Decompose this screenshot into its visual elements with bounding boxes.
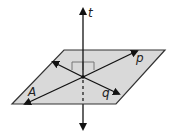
intersection-point [81,75,85,79]
label-p: p [135,51,144,65]
diagram: t p q A [0,0,175,138]
label-q: q [102,86,110,100]
label-a: A [27,85,36,99]
label-t: t [88,6,94,20]
